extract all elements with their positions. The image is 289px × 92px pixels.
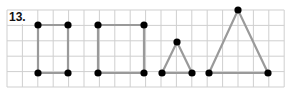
small-triangle-outline: [162, 42, 192, 73]
vertex-point: [234, 6, 241, 13]
vertex-point: [158, 69, 165, 76]
vertex-point: [64, 21, 71, 28]
vertex-point: [173, 38, 180, 45]
vertex-point: [264, 69, 271, 76]
vertex-point: [64, 69, 71, 76]
vertex-point: [94, 69, 101, 76]
grid-diagram: 13.: [0, 0, 289, 92]
vertex-point: [94, 21, 101, 28]
vertex-point: [34, 69, 41, 76]
problem-number: 13.: [8, 11, 27, 24]
vertex-point: [34, 21, 41, 28]
graph-paper: [0, 0, 289, 92]
vertex-point: [140, 69, 147, 76]
rectangle-2-outline: [98, 25, 144, 73]
small-triangle: [158, 38, 195, 76]
vertex-point: [140, 21, 147, 28]
vertex-point: [205, 69, 212, 76]
vertex-point: [188, 69, 195, 76]
rectangle-2: [94, 21, 147, 76]
